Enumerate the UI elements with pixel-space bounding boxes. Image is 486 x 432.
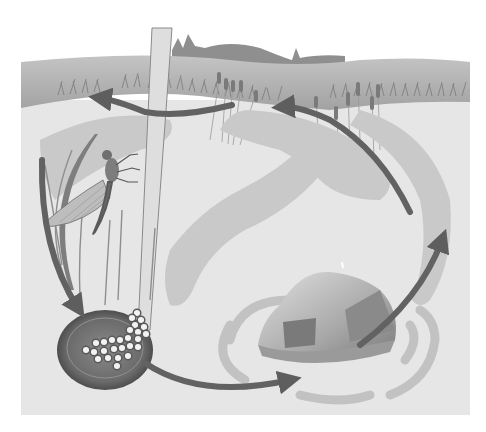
mayfly-head	[102, 150, 112, 160]
mayfly-life-cycle-diagram	[0, 0, 486, 432]
